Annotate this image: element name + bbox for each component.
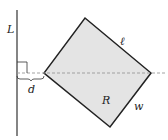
label-w: w bbox=[134, 100, 144, 113]
label-d: d bbox=[28, 83, 35, 96]
right-angle-marker bbox=[17, 62, 27, 73]
label-ell: ℓ bbox=[120, 35, 125, 48]
diagram: L ℓ R w d bbox=[0, 0, 168, 140]
brace-d bbox=[17, 76, 44, 81]
label-L: L bbox=[6, 23, 14, 36]
label-R: R bbox=[101, 94, 110, 107]
